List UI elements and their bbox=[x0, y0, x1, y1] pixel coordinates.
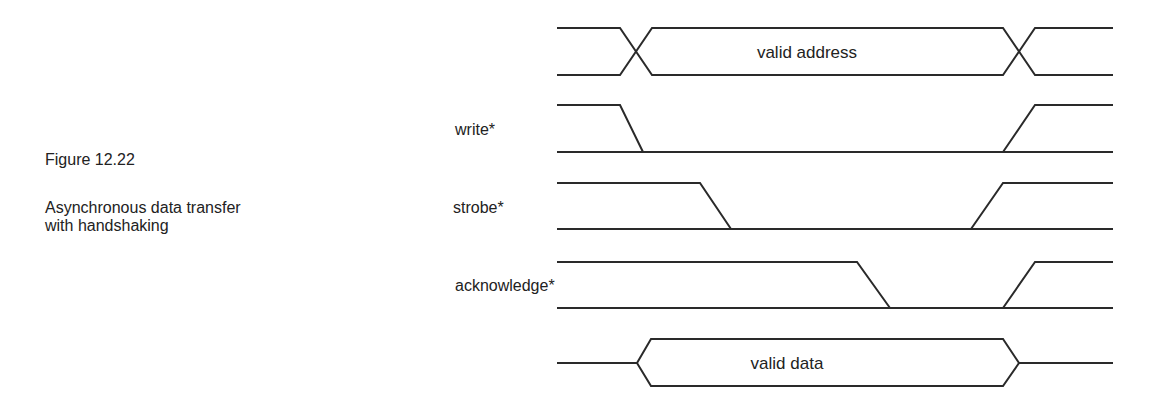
valid-data-label: valid data bbox=[751, 354, 824, 373]
address-bus-waveform: valid address bbox=[557, 28, 1113, 75]
data-bus-waveform: valid data bbox=[557, 339, 1113, 386]
timing-diagram: valid address valid data bbox=[0, 0, 1160, 414]
valid-address-label: valid address bbox=[757, 43, 857, 62]
strobe-waveform bbox=[557, 183, 1113, 229]
write-waveform bbox=[557, 105, 1113, 152]
acknowledge-waveform bbox=[557, 262, 1113, 308]
